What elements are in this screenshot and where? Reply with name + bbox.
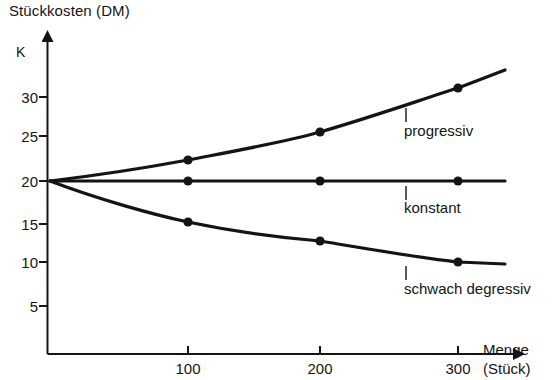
data-point xyxy=(183,217,192,226)
data-point xyxy=(315,236,324,245)
data-point xyxy=(453,257,462,266)
data-point xyxy=(183,155,192,164)
data-point xyxy=(453,83,462,92)
series-curve-progressiv xyxy=(50,70,505,181)
data-point xyxy=(315,176,324,185)
chart-plot-svg xyxy=(0,0,557,380)
data-point xyxy=(453,176,462,185)
chart-canvas: Stückkosten (DM) K 30 25 20 15 10 5 100 … xyxy=(0,0,557,380)
data-point xyxy=(315,127,324,136)
data-point-markers xyxy=(183,83,462,266)
series-curve-schwach-degressiv xyxy=(50,181,505,264)
data-point xyxy=(183,176,192,185)
